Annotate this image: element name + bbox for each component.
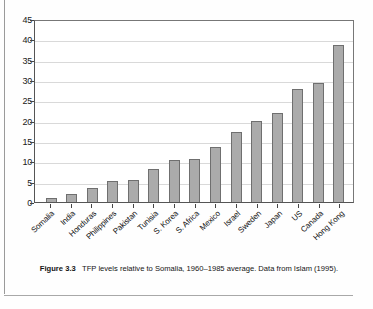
bar-slot <box>205 21 226 202</box>
x-axis-tick-label: US <box>290 209 304 223</box>
bar <box>87 188 98 202</box>
x-label-slot: S. Africa <box>185 208 206 258</box>
y-axis-tick-labels: 454035302520151050 <box>12 20 32 203</box>
bar-series <box>35 21 353 202</box>
x-label-slot: Japan <box>267 208 288 258</box>
bar-slot <box>226 21 247 202</box>
bar <box>107 181 118 202</box>
x-label-slot: Mexico <box>205 208 226 258</box>
bar <box>189 159 200 203</box>
bar-slot <box>164 21 185 202</box>
figure-number: Figure 3.3 <box>40 264 76 273</box>
bar <box>66 194 77 202</box>
bar <box>292 89 303 202</box>
bar-slot <box>123 21 144 202</box>
bar <box>148 169 159 202</box>
bar-slot <box>308 21 329 202</box>
figure-container: 454035302520151050 SomaliaIndiaHondurasP… <box>0 0 373 309</box>
bar-slot <box>328 21 349 202</box>
x-label-slot: Pakistan <box>123 208 144 258</box>
bar <box>210 147 221 202</box>
x-label-slot: Hong Kong <box>329 208 350 258</box>
page-rule-bottom <box>4 295 353 296</box>
bar <box>128 180 139 202</box>
bar-slot <box>82 21 103 202</box>
x-label-slot: Sweden <box>247 208 268 258</box>
bar <box>46 198 57 202</box>
plot-area <box>34 20 354 203</box>
x-axis-tick-label: Somalia <box>30 209 57 235</box>
bar-slot <box>246 21 267 202</box>
bar <box>169 160 180 202</box>
bar-slot <box>41 21 62 202</box>
bar-slot <box>103 21 124 202</box>
page-rule-left <box>4 0 5 294</box>
bar <box>251 121 262 202</box>
bar-slot <box>267 21 288 202</box>
x-axis-tick-labels: SomaliaIndiaHondurasPhilippinesPakistanT… <box>34 208 354 258</box>
bar-slot <box>287 21 308 202</box>
bar-slot <box>144 21 165 202</box>
figure-caption: Figure 3.3 TFP levels relative to Somali… <box>34 263 344 275</box>
figure-caption-text: TFP levels relative to Somalia, 1960–198… <box>82 264 338 273</box>
bar <box>231 132 242 202</box>
bar <box>313 83 324 202</box>
x-label-slot: Somalia <box>40 208 61 258</box>
bar <box>272 113 283 202</box>
bar-slot <box>185 21 206 202</box>
bar <box>333 45 344 202</box>
bar-slot <box>62 21 83 202</box>
